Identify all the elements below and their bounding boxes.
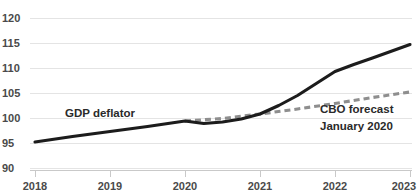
x-axis-labels: 2018 2019 2020 2021 2022 2023 [23,180,416,192]
cbo-forecast-annotation-line1: CBO forecast [320,103,394,115]
x-tick-2020: 2020 [173,180,197,192]
y-tick-120: 120 [2,12,20,24]
x-tick-2018: 2018 [23,180,47,192]
x-tick-2023: 2023 [392,180,416,192]
y-tick-115: 115 [2,37,20,49]
y-tick-105: 105 [2,87,20,99]
y-tick-100: 100 [2,112,20,124]
chart-container: 120 115 110 105 100 95 90 2018 2019 2020… [0,0,417,196]
x-tick-2021: 2021 [248,180,272,192]
gdp-deflator-annotation: GDP deflator [65,107,136,119]
y-tick-110: 110 [2,62,20,74]
cbo-forecast-annotation-line2: January 2020 [320,120,393,132]
y-axis-labels: 120 115 110 105 100 95 90 [2,12,20,174]
x-tick-2022: 2022 [323,180,347,192]
x-tick-2019: 2019 [98,180,122,192]
line-chart-plot: 120 115 110 105 100 95 90 2018 2019 2020… [0,0,417,196]
y-tick-95: 95 [2,137,14,149]
y-tick-90: 90 [2,162,14,174]
x-axis-ticks [36,171,411,177]
gridlines [30,19,412,169]
